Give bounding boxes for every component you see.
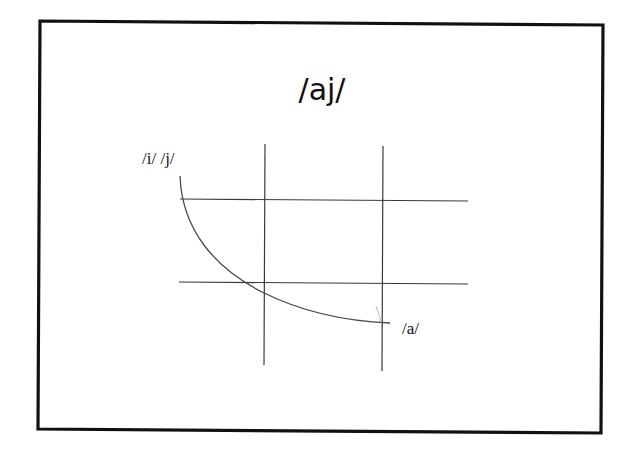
end-marker-stroke [376,306,381,322]
trajectory-curve [180,176,390,323]
slide-title: /aj/ [299,72,347,107]
grid-horizontal-line-2 [179,282,468,284]
label-end-vowel: /a/ [402,319,419,338]
vowel-grid [179,144,468,371]
grid-vertical-line-1 [264,144,265,365]
grid-horizontal-line-1 [180,199,468,201]
label-start-vowel: /i/ /j/ [142,149,175,168]
grid-vertical-line-2 [382,146,383,371]
slide: /aj/ /i/ /j/ /a/ [0,0,632,456]
